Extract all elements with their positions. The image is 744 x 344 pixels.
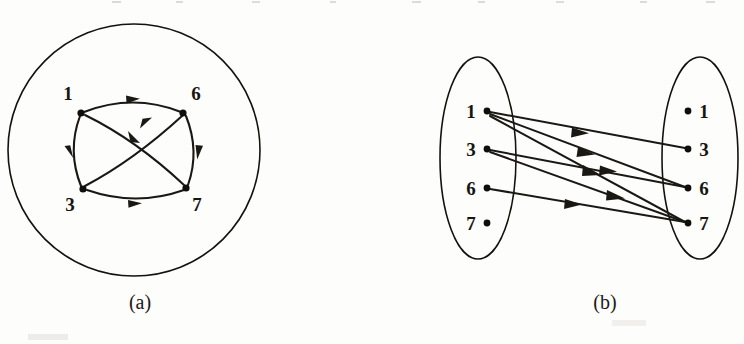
panel-b-right-node-7-dot[interactable] xyxy=(685,220,692,227)
panel-a-caption: (a) xyxy=(129,291,151,314)
panel-b: 1 3 6 7 1 3 6 7 (b) xyxy=(440,57,738,314)
panel-b-right-node-1-label: 1 xyxy=(699,101,709,122)
panel-b-left-node-3-dot[interactable] xyxy=(484,146,491,153)
arrowhead-3-to-7 xyxy=(128,200,142,208)
edge-1-to-7 xyxy=(85,115,184,185)
panel-a-node-1-label: 1 xyxy=(63,83,73,104)
arrowhead-L6-to-R7 xyxy=(564,199,582,209)
panel-b-right-node-7-label: 7 xyxy=(699,213,709,234)
panel-a-enclosing-circle xyxy=(8,24,260,276)
panel-b-left-node-7-dot[interactable] xyxy=(484,220,491,227)
panel-b-left-node-6-label: 6 xyxy=(466,178,476,199)
panel-b-right-node-6-dot[interactable] xyxy=(685,185,692,192)
arrowhead-3-to-6 xyxy=(140,118,152,129)
panel-a: 1 6 3 7 (a) xyxy=(8,24,260,314)
panel-a-node-3-dot[interactable] xyxy=(79,185,86,192)
edge-3-to-6 xyxy=(85,116,182,186)
panel-b-right-node-1-dot[interactable] xyxy=(685,108,692,115)
panel-a-node-6-label: 6 xyxy=(191,83,201,104)
panel-b-left-node-1-label: 1 xyxy=(466,101,476,122)
panel-a-node-1-dot[interactable] xyxy=(77,109,84,116)
arrowhead-6-to-7 xyxy=(196,145,204,160)
panel-b-caption: (b) xyxy=(593,291,616,314)
edge-L1-to-R6 xyxy=(490,114,685,187)
edge-1-to-3 xyxy=(65,116,82,186)
arrowhead-1-to-3 xyxy=(65,145,74,158)
panel-b-right-node-3-label: 3 xyxy=(699,139,709,160)
figure-container: 1 6 3 7 (a) xyxy=(0,0,744,344)
panel-b-right-node-3-dot[interactable] xyxy=(685,146,692,153)
edge-1-to-6 xyxy=(84,96,181,113)
panel-b-right-node-6-label: 6 xyxy=(699,178,709,199)
panel-b-left-node-6-dot[interactable] xyxy=(484,185,491,192)
panel-a-node-3-label: 3 xyxy=(65,194,75,215)
edge-L3-to-R7 xyxy=(490,152,685,222)
panel-b-left-node-3-label: 3 xyxy=(466,139,476,160)
edge-L3-to-R6 xyxy=(490,150,685,187)
edge-3-to-7 xyxy=(87,190,184,208)
panel-b-left-node-1-dot[interactable] xyxy=(484,108,491,115)
edge-L1-to-R3 xyxy=(490,112,685,148)
panel-a-node-6-dot[interactable] xyxy=(179,109,186,116)
figure-svg: 1 6 3 7 (a) xyxy=(0,0,744,344)
panel-a-node-7-dot[interactable] xyxy=(182,184,189,191)
panel-a-node-7-label: 7 xyxy=(192,194,202,215)
edge-6-to-7 xyxy=(186,116,203,185)
panel-b-left-node-7-label: 7 xyxy=(466,213,476,234)
